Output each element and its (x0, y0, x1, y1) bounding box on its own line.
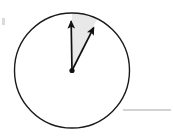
left-edge-mark (2, 18, 5, 25)
vector-arrow-vertical (71, 21, 72, 70)
geometry-diagram (0, 0, 173, 138)
center-dot (69, 68, 74, 73)
figure-container (0, 0, 173, 138)
